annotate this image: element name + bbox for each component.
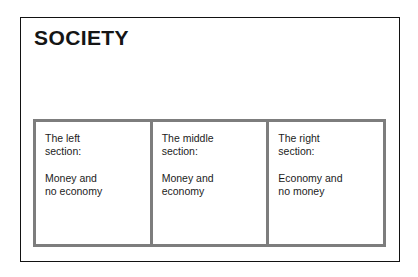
section-middle: The middle section: Money and economy [150,122,267,244]
section-middle-body: Money and economy [162,172,258,198]
section-left: The left section: Money and no economy [36,122,150,244]
section-right-heading: The right section: [278,132,374,158]
section-middle-heading: The middle section: [162,132,258,158]
section-left-heading: The left section: [45,132,141,158]
section-right: The right section: Economy and no money [266,122,383,244]
page-title: SOCIETY [34,27,129,48]
society-diagram-frame: SOCIETY The left section: Money and no e… [20,17,400,262]
section-left-body: Money and no economy [45,172,141,198]
sections-container: The left section: Money and no economy T… [33,119,386,247]
section-right-body: Economy and no money [278,172,374,198]
